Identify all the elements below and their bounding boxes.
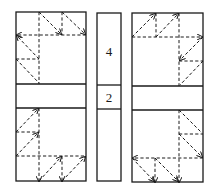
- right-outline: [132, 13, 203, 182]
- figure: 4 2: [0, 0, 212, 192]
- middle-strip: 4 2: [97, 13, 121, 181]
- diagram-canvas: 4 2: [0, 0, 212, 192]
- right-top-folds: [132, 13, 203, 86]
- left-bottom-folds: [16, 108, 86, 181]
- left-panel: [16, 12, 86, 181]
- right-panel: [132, 13, 203, 182]
- label-two: 2: [106, 90, 113, 105]
- label-four: 4: [106, 44, 113, 59]
- left-top-folds: [16, 12, 86, 84]
- right-bottom-folds: [132, 110, 203, 182]
